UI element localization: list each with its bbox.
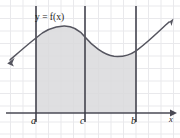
figure-area-under-curve: y = f(x) a c b x: [0, 0, 180, 138]
x-tick-label-b: b: [131, 116, 136, 126]
x-tick-label-c: c: [80, 116, 84, 126]
x-tick-label-a: a: [31, 116, 36, 126]
function-label: y = f(x): [35, 13, 64, 23]
x-axis-label: x: [169, 115, 173, 124]
graph-canvas: [0, 0, 180, 138]
curve-arrowhead-right: [166, 19, 173, 26]
